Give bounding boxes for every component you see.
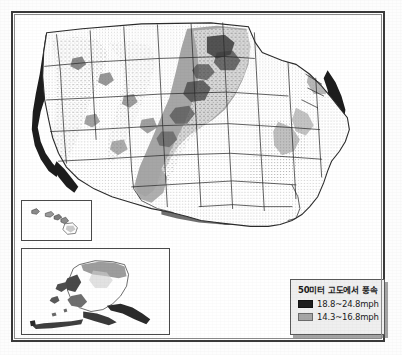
legend-item-medium: 14.3~16.8mph xyxy=(298,312,378,322)
legend-label-high: 18.8~24.8mph xyxy=(317,299,379,309)
legend-title: 50미터 고도에서 풍속 xyxy=(298,285,378,296)
hawaii-inset xyxy=(21,200,92,241)
map-frame: 50미터 고도에서 풍속 18.8~24.8mph 14.3~16.8mph xyxy=(11,11,385,342)
alaska-inset xyxy=(21,248,170,335)
legend-swatch-high xyxy=(298,300,313,308)
legend-item-high: 18.8~24.8mph xyxy=(298,299,378,309)
legend-swatch-medium xyxy=(298,313,313,321)
wind-resource-map-figure: 50미터 고도에서 풍속 18.8~24.8mph 14.3~16.8mph xyxy=(0,0,402,355)
legend-label-medium: 14.3~16.8mph xyxy=(317,312,379,322)
map-legend: 50미터 고도에서 풍속 18.8~24.8mph 14.3~16.8mph xyxy=(290,279,385,335)
